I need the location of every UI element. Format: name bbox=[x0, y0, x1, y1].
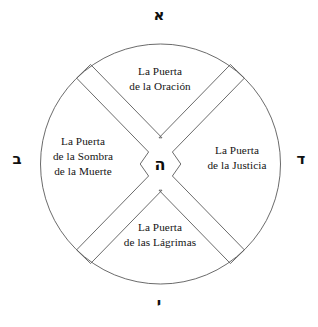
quadrant-west-line1: La Puerta bbox=[34, 134, 132, 149]
hebrew-letter-yod-icon: י bbox=[0, 296, 318, 311]
quadrant-label-west: La Puerta de la Sombra de la Muerte bbox=[34, 134, 132, 179]
quadrant-south-line1: La Puerta bbox=[95, 220, 225, 235]
quadrant-west-line3: de la Muerte bbox=[34, 164, 132, 179]
hebrew-letter-dalet-icon: ד bbox=[290, 152, 312, 167]
hebrew-letter-aleph-icon: א bbox=[0, 8, 318, 23]
band-sw-rim-cap bbox=[77, 250, 91, 264]
quadrant-east-line1: La Puerta bbox=[188, 143, 286, 158]
quadrant-label-north: La Puerta de la Oración bbox=[95, 64, 225, 94]
quadrant-label-south: La Puerta de las Lágrimas bbox=[95, 220, 225, 250]
gates-diagram: א ד י ב ה La Puerta de la Oración La Pue… bbox=[0, 0, 318, 327]
band-ne-rim-cap bbox=[230, 65, 244, 79]
quadrant-north-line1: La Puerta bbox=[95, 64, 225, 79]
band-se-rim-cap bbox=[230, 250, 244, 264]
quadrant-south-line2: de las Lágrimas bbox=[95, 235, 225, 250]
quadrant-label-east: La Puerta de la Justicia bbox=[188, 143, 286, 173]
band-nw-rim-cap bbox=[77, 65, 91, 79]
hebrew-letter-bet-icon: ב bbox=[6, 152, 28, 167]
hebrew-letter-he-icon: ה bbox=[146, 150, 174, 178]
quadrant-east-line2: de la Justicia bbox=[188, 158, 286, 173]
quadrant-north-line2: de la Oración bbox=[95, 79, 225, 94]
quadrant-west-line2: de la Sombra bbox=[34, 149, 132, 164]
